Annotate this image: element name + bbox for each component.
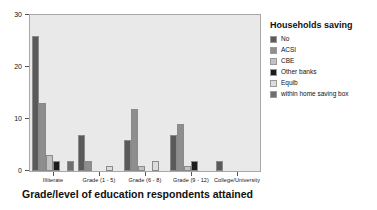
plot-area: [29, 14, 261, 172]
y-tick-label: 30: [14, 11, 22, 18]
legend-item[interactable]: ACSI: [270, 45, 375, 55]
x-tick-mark: [237, 172, 238, 176]
legend-title: Households saving: [270, 20, 375, 30]
bar: [85, 161, 92, 171]
bar: [46, 155, 53, 171]
bar-group: [124, 15, 166, 171]
x-axis-ticks: [29, 172, 261, 176]
bar: [39, 103, 46, 171]
legend-swatch-icon: [270, 58, 277, 65]
bar-group: [170, 15, 212, 171]
x-tick-label: Grade (1 - 5): [83, 177, 116, 183]
x-tick-label: Grade (6 - 8): [129, 177, 162, 183]
bar: [78, 135, 85, 171]
bar: [184, 166, 191, 171]
bar: [53, 161, 60, 171]
x-tick-mark: [145, 172, 146, 176]
bar: [216, 161, 223, 171]
bar-group: [78, 15, 120, 171]
x-tick-label: Illiterate: [43, 177, 63, 183]
y-tick-label: 10: [14, 115, 22, 122]
legend-item[interactable]: Other banks: [270, 67, 375, 77]
bar: [32, 36, 39, 171]
legend-item-label: No: [281, 36, 289, 43]
bar: [191, 161, 198, 171]
legend-item[interactable]: within home saving box: [270, 89, 375, 99]
legend-items: NoACSICBEOther banksEquibwithin home sav…: [270, 34, 375, 99]
y-tick-label: 20: [14, 63, 22, 70]
legend-item-label: within home saving box: [281, 91, 349, 98]
legend-item-label: Equib: [281, 80, 298, 87]
bars-layer: [30, 15, 260, 171]
bar-group: [32, 15, 74, 171]
bar: [106, 166, 113, 171]
legend-item-label: CBE: [281, 58, 294, 65]
bar: [152, 161, 159, 171]
bar: [131, 109, 138, 171]
bar: [124, 140, 131, 171]
x-tick-label: Grade (9 - 12): [173, 177, 209, 183]
legend-swatch-icon: [270, 36, 277, 43]
x-tick-label: College/University: [214, 177, 260, 183]
chart-root: 0102030 IlliterateGrade (1 - 5)Grade (6 …: [0, 0, 377, 210]
x-tick-mark: [53, 172, 54, 176]
y-tick-label: 0: [18, 167, 22, 174]
x-axis-labels: IlliterateGrade (1 - 5)Grade (6 - 8)Grad…: [29, 177, 261, 187]
bar: [177, 124, 184, 171]
x-tick-mark: [191, 172, 192, 176]
x-axis-title: Grade/level of education respondents att…: [0, 188, 275, 200]
legend: Households saving NoACSICBEOther banksEq…: [270, 20, 375, 100]
legend-swatch-icon: [270, 69, 277, 76]
legend-item-label: ACSI: [281, 47, 296, 54]
bar-group: [216, 15, 258, 171]
legend-item[interactable]: No: [270, 34, 375, 44]
legend-item[interactable]: CBE: [270, 56, 375, 66]
bar: [138, 166, 145, 171]
legend-swatch-icon: [270, 47, 277, 54]
bar: [67, 161, 74, 171]
bar: [170, 135, 177, 171]
legend-item[interactable]: Equib: [270, 78, 375, 88]
legend-swatch-icon: [270, 80, 277, 87]
legend-swatch-icon: [270, 91, 277, 98]
x-tick-mark: [99, 172, 100, 176]
legend-item-label: Other banks: [281, 69, 316, 76]
